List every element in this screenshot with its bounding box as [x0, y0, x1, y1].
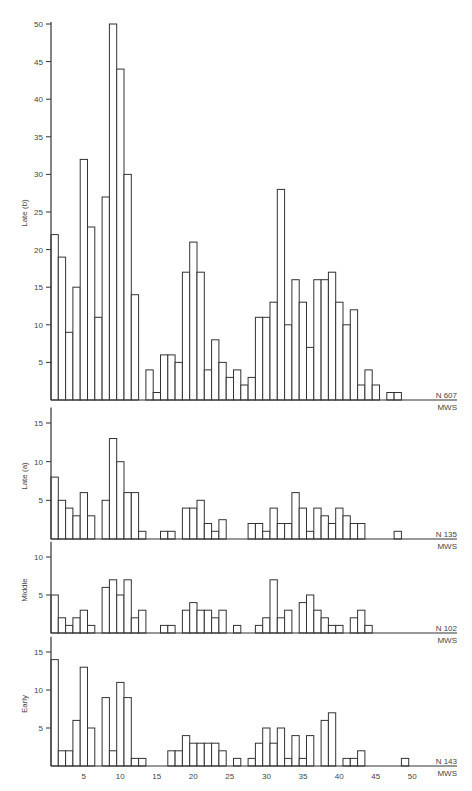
- histogram-bar: [80, 610, 87, 633]
- histogram-bar: [124, 174, 131, 400]
- histogram-bar: [299, 758, 306, 766]
- histogram-bar: [212, 743, 219, 766]
- histogram-bar: [182, 508, 189, 539]
- y-tick-label: 20: [34, 246, 43, 255]
- histogram-bar: [212, 340, 219, 400]
- histogram-bar: [358, 385, 365, 400]
- x-axis-label: MWS: [437, 403, 457, 412]
- histogram-bar: [307, 347, 314, 400]
- histogram-bar: [328, 625, 335, 633]
- histogram-bar: [161, 355, 168, 400]
- histogram-bar: [146, 370, 153, 400]
- histogram-bar: [168, 751, 175, 766]
- histogram-bar: [139, 758, 146, 766]
- histogram-bar: [285, 758, 292, 766]
- y-tick-label: 5: [39, 496, 44, 505]
- histogram-bar: [358, 524, 365, 540]
- histogram-bar: [372, 385, 379, 400]
- histogram-bar: [328, 524, 335, 540]
- y-tick-label: 15: [34, 648, 43, 657]
- histogram-bar: [102, 698, 109, 766]
- histogram-bar: [88, 516, 95, 539]
- y-tick-label: 10: [34, 553, 43, 562]
- histogram-bar: [307, 736, 314, 766]
- histogram-bar: [350, 310, 357, 400]
- histogram-bar: [365, 370, 372, 400]
- sample-size-label: N 102: [436, 624, 458, 633]
- histogram-bar: [394, 531, 401, 539]
- histogram-bar: [102, 587, 109, 633]
- histogram-bar: [51, 235, 58, 400]
- histogram-bar: [190, 603, 197, 633]
- histogram-bar: [285, 325, 292, 400]
- histogram-bar: [321, 618, 328, 633]
- histogram-bar: [190, 743, 197, 766]
- histogram-bar: [197, 272, 204, 400]
- histogram-bar: [204, 743, 211, 766]
- histogram-bar: [51, 595, 58, 633]
- histogram-bar: [131, 758, 138, 766]
- y-axis-label: Late (b): [20, 199, 29, 227]
- histogram-bar: [153, 393, 160, 401]
- histogram-bar: [161, 531, 168, 539]
- histogram-bar: [255, 625, 262, 633]
- x-axis-label: MWS: [437, 636, 457, 645]
- x-tick-label: 5: [82, 772, 87, 781]
- histogram-bar: [66, 332, 73, 400]
- histogram-bar: [314, 610, 321, 633]
- histogram-bar: [204, 524, 211, 540]
- histogram-bar: [263, 317, 270, 400]
- histogram-bar: [314, 508, 321, 539]
- histogram-bar: [299, 508, 306, 539]
- histogram-panel-early: 51015EarlyN 143MWS5101520253035404550: [20, 637, 458, 781]
- x-tick-label: 30: [262, 772, 271, 781]
- histogram-bar: [161, 625, 168, 633]
- histogram-bar: [109, 439, 116, 540]
- y-axis-label: Middle: [20, 578, 29, 602]
- y-tick-label: 15: [34, 419, 43, 428]
- histogram-bar: [263, 728, 270, 766]
- histogram-bar: [255, 317, 262, 400]
- x-tick-label: 50: [408, 772, 417, 781]
- histogram-bar: [248, 524, 255, 540]
- histogram-bar: [270, 580, 277, 633]
- histogram-bar: [58, 500, 65, 539]
- histogram-bar: [270, 743, 277, 766]
- y-tick-label: 30: [34, 170, 43, 179]
- y-tick-label: 40: [34, 95, 43, 104]
- histogram-bar: [321, 280, 328, 400]
- histogram-bar: [336, 302, 343, 400]
- histogram-bar: [66, 625, 73, 633]
- x-tick-label: 45: [371, 772, 380, 781]
- histogram-bar: [51, 477, 58, 539]
- histogram-bar: [168, 355, 175, 400]
- histogram-bar: [307, 531, 314, 539]
- histogram-bar: [241, 385, 248, 400]
- y-tick-label: 5: [39, 591, 44, 600]
- x-tick-label: 35: [298, 772, 307, 781]
- histogram-bar: [80, 159, 87, 400]
- y-tick-label: 10: [34, 321, 43, 330]
- histogram-bar: [336, 625, 343, 633]
- y-tick-label: 15: [34, 283, 43, 292]
- histogram-bar: [248, 758, 255, 766]
- histogram-bar: [350, 758, 357, 766]
- histogram-bar: [124, 698, 131, 766]
- x-axis-label: MWS: [437, 769, 457, 778]
- histogram-bar: [248, 377, 255, 400]
- histogram-bar: [117, 69, 124, 400]
- histogram-bar: [58, 618, 65, 633]
- histogram-bar: [204, 370, 211, 400]
- histogram-bar: [219, 751, 226, 766]
- histogram-bar: [190, 508, 197, 539]
- histogram-bar: [182, 610, 189, 633]
- histogram-bar: [255, 743, 262, 766]
- y-tick-label: 25: [34, 208, 43, 217]
- histogram-bar: [285, 610, 292, 633]
- y-tick-label: 35: [34, 133, 43, 142]
- histogram-bar: [212, 618, 219, 633]
- histogram-bar: [285, 524, 292, 540]
- histogram-bar: [387, 393, 394, 401]
- histogram-bar: [219, 362, 226, 400]
- histogram-bar: [175, 362, 182, 400]
